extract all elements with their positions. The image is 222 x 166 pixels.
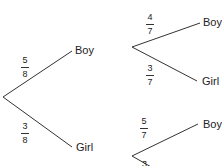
outcome-first-boy: Boy (75, 45, 94, 56)
fraction-bar (21, 67, 29, 68)
numerator: 5 (22, 56, 27, 65)
prob-first-girl: 3 8 (21, 122, 29, 145)
prob-boy-boy: 4 7 (146, 13, 154, 36)
denominator: 7 (147, 78, 152, 87)
prob-boy-girl: 3 7 (146, 64, 154, 87)
outcome-girl-boy: Boy (203, 119, 222, 130)
denominator: 7 (141, 131, 146, 140)
numerator: 5 (141, 117, 146, 126)
fraction-bar (140, 128, 148, 129)
tree-lines (0, 0, 222, 166)
outcome-boy-boy: Boy (203, 17, 222, 28)
outcome-boy-girl: Girl (202, 76, 219, 87)
numerator: 3 (147, 64, 152, 73)
fraction-bar (21, 133, 29, 134)
numerator: 3 (142, 160, 147, 166)
denominator: 8 (22, 136, 27, 145)
numerator: 4 (147, 13, 152, 22)
prob-first-boy: 5 8 (21, 56, 29, 79)
denominator: 7 (147, 27, 152, 36)
fraction-bar (146, 75, 154, 76)
prob-girl-boy: 5 7 (140, 117, 148, 140)
denominator: 8 (22, 70, 27, 79)
outcome-first-girl: Girl (76, 142, 93, 153)
numerator: 3 (22, 122, 27, 131)
fraction-bar (146, 24, 154, 25)
prob-girl-girl: 3 (142, 160, 147, 166)
